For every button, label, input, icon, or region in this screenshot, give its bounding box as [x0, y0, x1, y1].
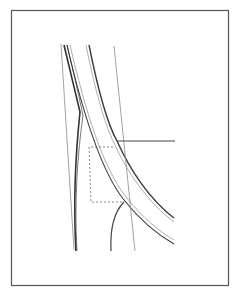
- drawing-canvas: [0, 0, 238, 296]
- right-guide-line: [114, 46, 135, 251]
- technical-drawing: [0, 0, 238, 296]
- inner-curve-dark: [67, 45, 174, 244]
- outer-curve-light: [86, 45, 174, 222]
- lower-arc: [111, 202, 124, 251]
- outer-curve-dark: [89, 45, 174, 218]
- inner-curve-light: [70, 45, 174, 240]
- left-guide-line: [61, 44, 74, 250]
